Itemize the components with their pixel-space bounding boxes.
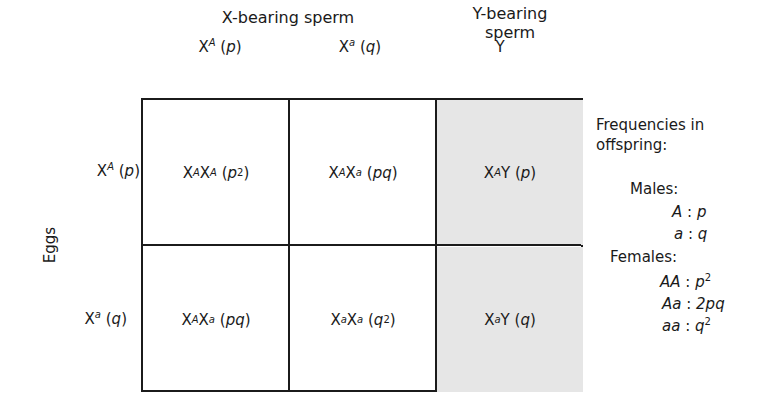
eggs-group-label: Eggs [41, 215, 59, 275]
row-header-XA: XA (p) [60, 162, 140, 180]
y-sperm-label-line1: Y-bearing [445, 4, 575, 23]
cell-XAXa-bottom: XAXa (pq) [143, 247, 289, 392]
cell-XaXa: XaXa (q2) [290, 247, 436, 392]
female-freq-AA: AA : p2 [660, 273, 711, 291]
male-freq-A: A : p [672, 203, 706, 221]
row-header-Xa: Xa (q) [60, 310, 127, 328]
x-sperm-group-label: X-bearing sperm [200, 8, 376, 27]
females-label: Females: [610, 248, 677, 266]
cell-XAXa-top: XAXa (pq) [290, 100, 436, 245]
cell-XaY: XaY (q) [437, 247, 583, 392]
col-header-Y: Y [470, 38, 530, 56]
female-freq-aa: aa : q2 [662, 317, 711, 335]
cell-XAY: XAY (p) [437, 100, 583, 245]
males-label: Males: [630, 180, 678, 198]
female-freq-Aa: Aa : 2pq [662, 295, 725, 313]
punnett-square: XAY (p) XaY (q) XAXA (p2) XAXa (pq) XAXa… [141, 98, 583, 392]
col-header-Xa: Xa (q) [320, 38, 400, 56]
y-sperm-group-label: Y-bearing sperm [445, 4, 575, 42]
col-header-XA: XA (p) [180, 38, 260, 56]
cell-XAXA: XAXA (p2) [143, 100, 289, 245]
male-freq-a: a : q [674, 225, 707, 243]
grid-divider-h [143, 244, 581, 246]
legend-title: Frequencies in offspring: [596, 115, 704, 155]
